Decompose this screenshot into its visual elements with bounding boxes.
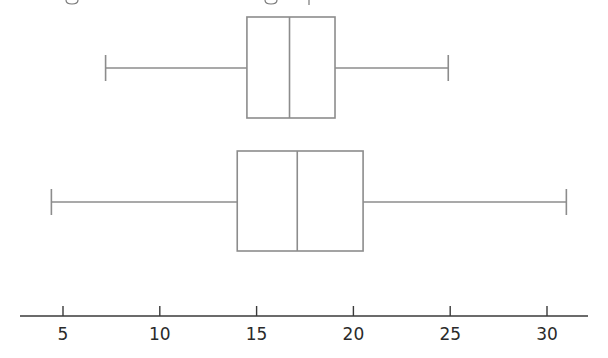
box-plot-chart: 51015202530 <box>0 0 608 358</box>
box-plots <box>51 17 566 251</box>
box-plot-bottom <box>51 151 566 251</box>
iqr-box <box>247 17 335 118</box>
tick-label: 25 <box>439 324 461 344</box>
tick-label: 10 <box>149 324 171 344</box>
box-plot-top <box>106 17 449 118</box>
tick-label: 5 <box>58 324 69 344</box>
tick-label: 15 <box>246 324 268 344</box>
tick-label: 20 <box>343 324 365 344</box>
cropped-caption-remnant <box>66 0 309 5</box>
x-axis: 51015202530 <box>20 306 588 344</box>
tick-label: 30 <box>536 324 558 344</box>
iqr-box <box>237 151 363 251</box>
